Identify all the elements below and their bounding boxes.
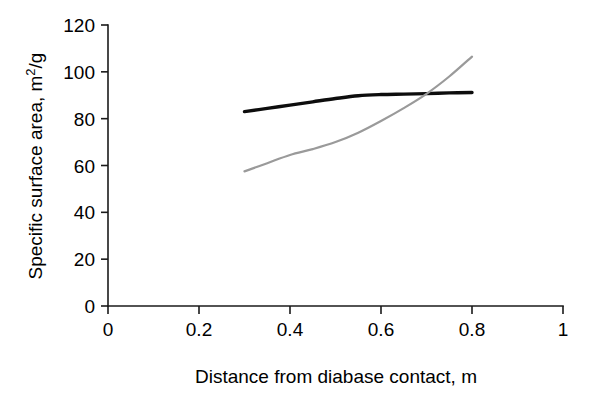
- series-gray-curve: [245, 57, 473, 172]
- data-series-group: [245, 57, 473, 172]
- axes-group: [108, 25, 563, 306]
- x-tick-label: 0: [103, 319, 114, 340]
- y-axis-title-suffix: /g: [25, 53, 46, 69]
- y-tick-label: 0: [84, 296, 95, 317]
- y-tick-label: 100: [63, 62, 95, 83]
- y-tick-label: 120: [63, 15, 95, 36]
- y-tick-label: 60: [74, 156, 95, 177]
- y-tick-label: 20: [74, 249, 95, 270]
- y-tick-labels: 020406080100120: [63, 15, 95, 317]
- x-tick-label: 0.8: [459, 319, 485, 340]
- x-tick-label: 1: [558, 319, 569, 340]
- series-black-curve: [245, 92, 473, 111]
- y-axis-title-superscript: 2: [23, 68, 38, 75]
- chart-plot-area: 020406080100120 00.20.40.60.81 Distance …: [0, 0, 602, 395]
- tick-marks-group: [101, 25, 563, 314]
- x-tick-labels: 00.20.40.60.81: [103, 319, 569, 340]
- x-axis-title: Distance from diabase contact, m: [195, 366, 477, 387]
- y-tick-label: 80: [74, 109, 95, 130]
- x-tick-label: 0.4: [277, 319, 304, 340]
- x-tick-label: 0.2: [186, 319, 212, 340]
- chart-figure: 020406080100120 00.20.40.60.81 Distance …: [0, 0, 602, 395]
- x-tick-label: 0.6: [368, 319, 394, 340]
- y-tick-label: 40: [74, 202, 95, 223]
- y-axis-title: Specific surface area, m2/g: [23, 53, 46, 280]
- y-axis-title-prefix: Specific surface area, m: [25, 76, 46, 280]
